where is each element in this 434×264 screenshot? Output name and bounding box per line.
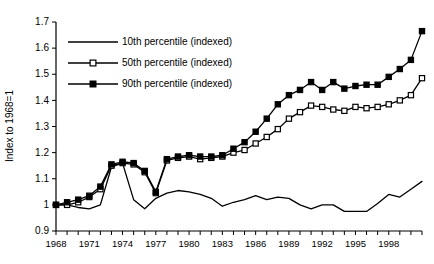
- data-point-marker: [364, 82, 369, 87]
- legend-sample-marker: [90, 60, 96, 66]
- x-tick-label: 1968: [45, 238, 66, 249]
- legend-label: 10th percentile (indexed): [122, 36, 232, 47]
- data-point-marker: [308, 103, 313, 108]
- y-tick-label: 1.3: [35, 121, 49, 132]
- data-point-marker: [386, 74, 391, 79]
- x-tick-label: 1980: [179, 238, 200, 249]
- data-point-marker: [186, 153, 191, 158]
- x-tick-label: 1983: [212, 238, 233, 249]
- y-tick-label: 1.5: [35, 68, 49, 79]
- chart-figure: Index to 1968=1 0.911.11.21.31.41.51.61.…: [0, 0, 434, 264]
- legend-label: 50th percentile (indexed): [122, 57, 232, 68]
- x-tick-label: 1986: [245, 238, 266, 249]
- y-tick-label: 1.2: [35, 147, 49, 158]
- data-point-marker: [275, 127, 280, 132]
- data-point-marker: [397, 66, 402, 71]
- data-point-marker: [209, 154, 214, 159]
- x-tick-label: 1971: [79, 238, 100, 249]
- data-point-marker: [331, 79, 336, 84]
- data-point-marker: [286, 93, 291, 98]
- data-point-marker: [320, 87, 325, 92]
- data-point-marker: [297, 110, 302, 115]
- data-point-marker: [297, 87, 302, 92]
- y-tick-label: 1: [43, 199, 49, 210]
- data-point-marker: [408, 57, 413, 62]
- legend-sample-marker: [90, 81, 96, 87]
- legend-label: 90th percentile (indexed): [122, 78, 232, 89]
- data-point-marker: [242, 147, 247, 152]
- data-point-marker: [275, 102, 280, 107]
- data-point-marker: [231, 146, 236, 151]
- data-point-marker: [120, 159, 125, 164]
- data-point-marker: [342, 86, 347, 91]
- data-point-marker: [408, 93, 413, 98]
- data-point-marker: [264, 116, 269, 121]
- y-tick-label: 1.7: [35, 16, 49, 27]
- data-point-marker: [164, 157, 169, 162]
- x-tick-label: 1992: [312, 238, 333, 249]
- data-point-marker: [53, 202, 58, 207]
- data-point-marker: [175, 154, 180, 159]
- data-point-marker: [320, 104, 325, 109]
- data-point-marker: [98, 184, 103, 189]
- y-tick-label: 1.6: [35, 42, 49, 53]
- data-point-marker: [286, 116, 291, 121]
- data-point-marker: [375, 104, 380, 109]
- x-tick-label: 1977: [145, 238, 166, 249]
- data-point-marker: [419, 29, 424, 34]
- data-point-marker: [264, 134, 269, 139]
- y-tick-label: 0.9: [35, 225, 49, 236]
- x-tick-label: 1998: [378, 238, 399, 249]
- data-point-marker: [253, 129, 258, 134]
- data-point-marker: [64, 200, 69, 205]
- data-point-marker: [353, 83, 358, 88]
- data-point-marker: [308, 79, 313, 84]
- data-point-marker: [220, 153, 225, 158]
- data-point-marker: [397, 98, 402, 103]
- data-point-marker: [375, 82, 380, 87]
- data-point-marker: [242, 140, 247, 145]
- data-point-marker: [142, 168, 147, 173]
- data-point-marker: [76, 197, 81, 202]
- data-point-marker: [386, 102, 391, 107]
- y-axis-title: Index to 1968=1: [4, 90, 15, 162]
- x-tick-label: 1989: [278, 238, 299, 249]
- data-point-marker: [87, 193, 92, 198]
- y-tick-label: 1.1: [35, 173, 49, 184]
- data-point-marker: [131, 160, 136, 165]
- data-point-marker: [153, 189, 158, 194]
- x-tick-label: 1995: [345, 238, 366, 249]
- data-point-marker: [198, 154, 203, 159]
- data-point-marker: [109, 162, 114, 167]
- x-tick-label: 1974: [112, 238, 133, 249]
- data-point-marker: [342, 108, 347, 113]
- y-tick-label: 1.4: [35, 95, 49, 106]
- data-point-marker: [419, 76, 424, 81]
- data-point-marker: [364, 106, 369, 111]
- data-point-marker: [353, 104, 358, 109]
- data-point-marker: [331, 107, 336, 112]
- line-chart: Index to 1968=1 0.911.11.21.31.41.51.61.…: [0, 0, 434, 264]
- data-point-marker: [253, 141, 258, 146]
